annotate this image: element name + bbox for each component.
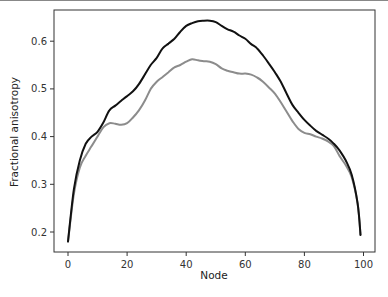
x-tick-label: 20 [121, 259, 134, 270]
y-tick-label: 0.6 [31, 36, 47, 47]
x-tick-label: 40 [180, 259, 193, 270]
plot-frame [54, 10, 375, 252]
y-axis-label: Fractional anisotropy [8, 77, 20, 187]
y-tick-label: 0.3 [31, 179, 47, 190]
series-grey-line [68, 59, 361, 241]
x-axis-label: Node [200, 269, 227, 281]
y-axis: 0.20.30.40.50.6 [31, 36, 54, 238]
x-tick-label: 100 [354, 259, 373, 270]
y-tick-label: 0.5 [31, 83, 47, 94]
data-lines [68, 21, 361, 242]
x-axis: 020406080100 [65, 252, 373, 270]
series-black-line [68, 21, 361, 242]
x-tick-label: 60 [239, 259, 252, 270]
plot-border [54, 10, 375, 252]
y-tick-label: 0.4 [31, 131, 47, 142]
x-tick-label: 0 [65, 259, 71, 270]
line-chart: 020406080100 0.20.30.40.50.6 Node Fracti… [0, 0, 388, 297]
y-tick-label: 0.2 [31, 227, 47, 238]
x-tick-label: 80 [298, 259, 311, 270]
